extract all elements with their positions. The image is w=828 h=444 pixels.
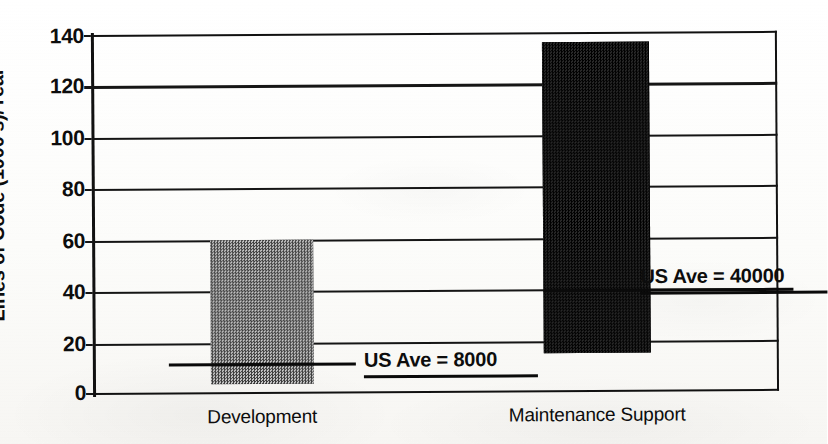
y-tick-mark-100	[84, 138, 91, 140]
y-tick-mark-80	[85, 189, 92, 191]
gridline-60	[92, 237, 778, 243]
gridline-80	[92, 185, 778, 191]
y-tick-mark-60	[85, 241, 92, 243]
annotation-us-ave-40000: US Ave = 40000	[640, 264, 784, 288]
y-axis-title: Lines of Code (1000's)/Year	[0, 45, 10, 345]
y-tick-mark-20	[86, 344, 93, 346]
y-tick-mark-40	[85, 292, 92, 294]
y-tick-label-20: 20	[63, 332, 86, 356]
annotation-us-ave-8000: US Ave = 8000	[364, 348, 497, 372]
bar-chart-figure: Lines of Code (1000's)/Year 140 120 100 …	[0, 0, 828, 444]
gridline-100	[91, 134, 777, 140]
y-tick-label-60: 60	[62, 229, 85, 253]
gridline-120	[91, 82, 777, 88]
x-category-label-development: Development	[207, 406, 317, 429]
x-category-label-maintenance-support: Maintenance Support	[509, 403, 686, 426]
x-axis-line	[93, 388, 779, 395]
y-tick-label-40: 40	[63, 280, 86, 304]
plot-right-border	[775, 31, 779, 391]
reference-line-us-ave-8000	[169, 362, 356, 366]
y-tick-label-120: 120	[50, 74, 84, 98]
y-tick-label-0: 0	[75, 381, 87, 405]
y-tick-label-80: 80	[62, 177, 85, 201]
plot-area: 140 120 100 80 60 40 20 0	[91, 31, 779, 395]
gridline-20	[93, 339, 779, 345]
y-tick-label-140: 140	[50, 24, 84, 48]
y-tick-label-100: 100	[50, 126, 84, 150]
y-tick-mark-0	[86, 393, 93, 395]
gridline-140	[91, 31, 777, 38]
bar-maintenance-support	[542, 42, 651, 354]
y-tick-mark-120	[84, 86, 91, 88]
y-tick-mark-140	[84, 35, 91, 37]
